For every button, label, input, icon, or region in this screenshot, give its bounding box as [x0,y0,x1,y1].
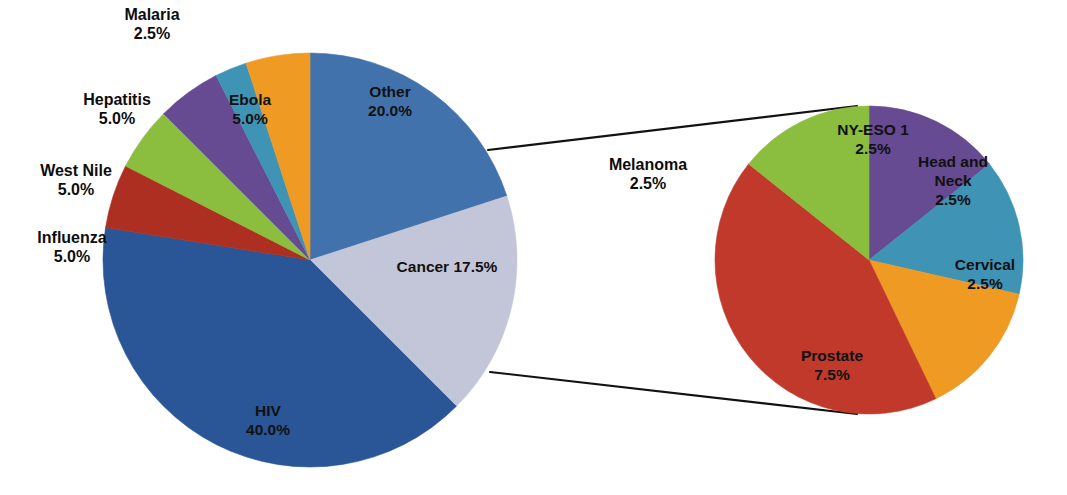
pie-label-line: 2.5% [134,25,170,42]
pie-label-line: 2.5% [855,140,891,157]
pie-label-line: 5.0% [54,248,90,265]
pie-label-line: Melanoma [609,156,687,173]
pie-label-line: Head and [918,153,988,170]
pie-label-line: 7.5% [814,366,850,383]
pie-label-hepatitis: Hepatitis5.0% [83,91,151,127]
pie-label-line: 20.0% [368,102,412,119]
pie-label-line: 5.0% [99,110,135,127]
pie-label-cancer: Cancer 17.5% [397,258,498,275]
pie-label-line: 2.5% [935,191,971,208]
pie-label-melanoma: Melanoma2.5% [609,156,687,192]
pie-label-line: West Nile [40,162,112,179]
pie-label-line: 5.0% [58,181,94,198]
pie-label-line: Prostate [801,347,863,364]
pie-label-line: HIV [255,402,282,419]
chart-canvas: Other20.0%Cancer 17.5%HIV40.0%Influenza5… [0,0,1067,495]
pie-label-malaria: Malaria2.5% [124,6,179,42]
pie-label-west-nile: West Nile5.0% [40,162,112,198]
pie-label-influenza: Influenza5.0% [37,229,106,265]
pie-label-line: NY-ESO 1 [837,121,909,138]
pie-label-line: Cervical [955,256,1015,273]
pie-label-line: 2.5% [630,175,666,192]
pie-chart-figure: Other20.0%Cancer 17.5%HIV40.0%Influenza5… [0,0,1067,495]
pie-label-line: Ebola [229,91,272,108]
pie-label-line: Hepatitis [83,91,151,108]
pie-label-line: Neck [934,172,971,189]
pie-label-line: Malaria [124,6,179,23]
pie-label-line: Influenza [37,229,106,246]
pie-label-line: Other [369,83,410,100]
pie-label-line: 5.0% [232,110,268,127]
pie-label-line: 2.5% [967,275,1003,292]
pie-label-line: Cancer 17.5% [397,258,498,275]
pie-label-line: 40.0% [246,421,290,438]
